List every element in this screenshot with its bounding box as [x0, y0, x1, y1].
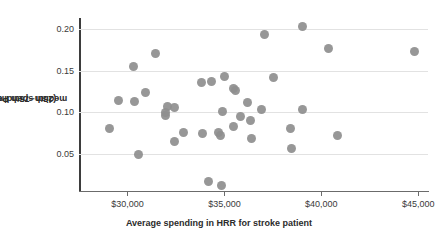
- x-tick-label: $30,000: [92, 199, 162, 209]
- y-tick-label: 0.10: [38, 108, 74, 117]
- x-tick-label: $45,000: [383, 199, 438, 209]
- y-tick-label: 0.05: [38, 150, 74, 159]
- y-tick-label: 0.20: [38, 25, 74, 34]
- x-tick-label: $35,000: [189, 199, 259, 209]
- x-tick-mark: [321, 191, 322, 196]
- scatter-chart: (25th−75th Percentile)/ median spending …: [0, 0, 438, 231]
- x-tick-mark: [127, 191, 128, 196]
- x-tick-mark: [418, 191, 419, 196]
- x-tick-mark: [224, 191, 225, 196]
- y-tick-labels: 0.050.100.150.20: [0, 0, 438, 231]
- y-tick-label: 0.15: [38, 67, 74, 76]
- x-tick-label: $40,000: [286, 199, 356, 209]
- x-axis-title: Average spending in HRR for stroke patie…: [0, 218, 438, 228]
